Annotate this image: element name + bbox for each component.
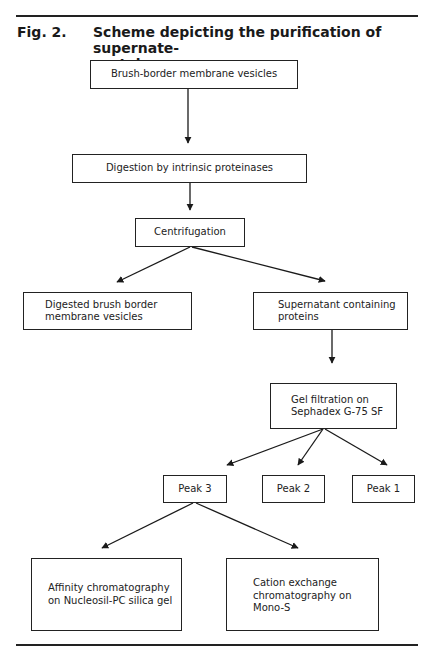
arrow-centrifugation-digested	[117, 247, 190, 282]
arrow-peak3-affinity	[102, 503, 193, 548]
node-label: Peak 3	[178, 483, 211, 496]
node-label: Cation exchange chromatography on Mono-S	[253, 577, 352, 615]
node-supernatant: Supernatant containing proteins	[253, 292, 408, 330]
arrow-centrifugation-supernatant	[192, 247, 325, 281]
node-label: Peak 2	[277, 483, 310, 496]
node-gel-filtration: Gel filtration on Sephadex G-75 SF	[270, 383, 397, 429]
arrow-gel-peak3	[227, 429, 323, 465]
node-label: Gel filtration on Sephadex G-75 SF	[291, 394, 383, 419]
node-label: Supernatant containing proteins	[278, 299, 396, 324]
node-label: Peak 1	[367, 483, 400, 496]
arrow-gel-peak1	[325, 429, 387, 465]
node-label: Centrifugation	[154, 226, 226, 239]
node-digested-vesicles: Digested brush border membrane vesicles	[23, 292, 192, 330]
node-label: Affinity chromatography on Nucleosil-PC …	[48, 582, 172, 607]
node-peak-3: Peak 3	[163, 475, 227, 503]
node-affinity-chromatography: Affinity chromatography on Nucleosil-PC …	[31, 558, 182, 631]
node-peak-1: Peak 1	[352, 475, 415, 503]
node-peak-2: Peak 2	[262, 475, 325, 503]
bottom-rule	[16, 644, 418, 646]
node-digestion: Digestion by intrinsic proteinases	[72, 154, 307, 183]
node-label: Digestion by intrinsic proteinases	[106, 162, 273, 175]
node-label: Brush-border membrane vesicles	[111, 68, 277, 81]
node-label: Digested brush border membrane vesicles	[45, 299, 157, 324]
node-centrifugation: Centrifugation	[135, 218, 245, 247]
node-brush-border-membrane-vesicles: Brush-border membrane vesicles	[90, 60, 298, 89]
arrow-gel-peak2	[298, 429, 323, 465]
arrow-peak3-cation	[196, 503, 298, 548]
node-cation-exchange: Cation exchange chromatography on Mono-S	[226, 558, 379, 631]
